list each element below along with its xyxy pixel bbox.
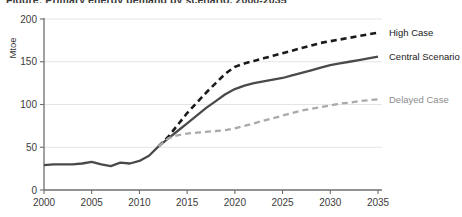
x-tick-label: 2020: [224, 197, 247, 208]
series-label-group: High CaseCentral ScenarioDelayed Case: [389, 27, 460, 105]
x-tick-label: 2000: [33, 197, 56, 208]
y-tick-label: 200: [20, 14, 37, 25]
series-line: [44, 146, 159, 166]
series-label-central-scenario: Central Scenario: [389, 51, 460, 62]
y-tick-label: 150: [20, 56, 37, 67]
chart-figure: Figure: Primary energy demand by scenari…: [0, 0, 462, 217]
x-tick-label: 2015: [176, 197, 199, 208]
series-group: [44, 33, 378, 166]
y-tick-label: 50: [26, 142, 38, 153]
y-tick-label: 100: [20, 99, 37, 110]
x-tick-label: 2025: [271, 197, 294, 208]
line-chart-plot: 050100150200 200020052010201520202025203…: [0, 0, 462, 217]
x-tick-label: 2030: [319, 197, 342, 208]
series-line: [159, 33, 378, 147]
x-tick-label: 2010: [128, 197, 151, 208]
x-tick-label: 2005: [81, 197, 104, 208]
series-line: [159, 57, 378, 147]
y-axis-title-text: Mtoe: [7, 37, 18, 58]
y-tick-label: 0: [31, 185, 37, 196]
x-tick-label-group: 20002005201020152020202520302035: [33, 190, 390, 208]
y-axis-title: Mtoe: [7, 37, 18, 58]
x-tick-label: 2035: [367, 197, 390, 208]
y-tick-label-group: 050100150200: [20, 14, 44, 196]
series-label-delayed-case: Delayed Case: [389, 94, 449, 105]
series-line: [159, 99, 378, 146]
gridline-group: [44, 19, 382, 147]
series-label-high-case: High Case: [389, 27, 433, 38]
